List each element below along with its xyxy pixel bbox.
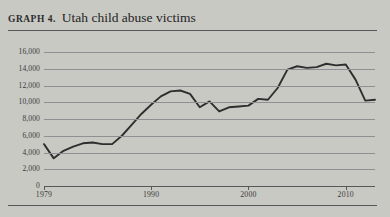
y-axis: 02,0004,0006,0008,00010,00012,00014,0001…	[0, 36, 40, 201]
y-tick-label: 4,000	[0, 149, 40, 157]
page-title: Utah child abuse victims	[62, 10, 196, 25]
y-tick-label: 16,000	[0, 48, 40, 56]
y-tick-label: 0	[0, 182, 40, 190]
gridline	[44, 52, 375, 53]
y-tick-label: 6,000	[0, 132, 40, 140]
plot-area	[44, 52, 375, 186]
y-tick-label: 2,000	[0, 165, 40, 173]
caption-rule-top	[8, 30, 377, 31]
figure-caption: Graph 4.Utah child abuse victims	[8, 8, 377, 30]
gridline	[44, 136, 375, 137]
x-tick-label: 1990	[143, 190, 159, 199]
y-tick-label: 8,000	[0, 115, 40, 123]
gridline	[44, 169, 375, 170]
x-tick-label: 2000	[240, 190, 256, 199]
x-axis-line	[44, 186, 375, 187]
x-tick-label: 2010	[338, 190, 354, 199]
gridline	[44, 102, 375, 103]
gridline	[44, 153, 375, 154]
y-tick-label: 10,000	[0, 98, 40, 106]
chart-canvas: 02,0004,0006,0008,00010,00012,00014,0001…	[0, 36, 390, 201]
gridline	[44, 86, 375, 87]
caption-rule-bottom	[8, 205, 377, 206]
x-tick-label: 1979	[36, 190, 52, 199]
figure-container: Graph 4.Utah child abuse victims 02,0004…	[0, 0, 390, 217]
figure-label: Graph 4.	[8, 14, 56, 24]
gridline	[44, 119, 375, 120]
y-tick-label: 12,000	[0, 82, 40, 90]
y-tick-label: 14,000	[0, 65, 40, 73]
gridline	[44, 69, 375, 70]
